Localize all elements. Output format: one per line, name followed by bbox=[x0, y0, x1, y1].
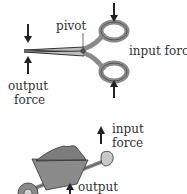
pivot-point bbox=[81, 49, 85, 53]
scissors-output-label-line1: output bbox=[8, 80, 48, 93]
wheelbarrow-input-label-line1: input bbox=[112, 123, 144, 136]
wheelbarrow-input-label-line2: force bbox=[112, 137, 143, 150]
arrow-up-icon bbox=[24, 56, 32, 63]
scissors-output-label-line2: force bbox=[14, 94, 45, 107]
scissors-input-force-label: input force bbox=[129, 45, 187, 58]
arrow-down-icon bbox=[24, 36, 32, 43]
arrow-up-icon bbox=[97, 126, 105, 134]
scissors-blade-bottom bbox=[24, 51, 84, 56]
wheelbarrow-load bbox=[36, 146, 86, 161]
wheelbarrow-output-label: output bbox=[78, 181, 118, 194]
pivot-label: pivot bbox=[56, 20, 86, 33]
hand-grip bbox=[101, 151, 113, 166]
